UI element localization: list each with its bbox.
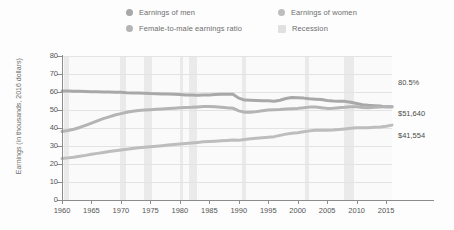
y-tick-label: 10 xyxy=(36,178,58,186)
x-tick-label: 2015 xyxy=(371,206,401,215)
y-tick-label: 70 xyxy=(36,70,58,78)
y-axis-line xyxy=(62,55,63,201)
legend-marker-circle-icon xyxy=(278,9,285,16)
x-tick-label: 1995 xyxy=(253,206,283,215)
legend-marker-circle-icon xyxy=(126,25,133,32)
x-tick-label: 2010 xyxy=(342,206,372,215)
y-tick-label: 60 xyxy=(36,88,58,96)
chart-legend: Earnings of men Earnings of women Female… xyxy=(120,6,420,40)
x-tick-label: 1990 xyxy=(224,206,254,215)
y-tick-label: 50 xyxy=(36,106,58,114)
x-tick-mark xyxy=(386,200,387,204)
plot-area xyxy=(62,56,392,200)
x-tick-mark xyxy=(209,200,210,204)
x-tick-mark xyxy=(298,200,299,204)
series-line xyxy=(62,91,392,107)
x-tick-mark xyxy=(180,200,181,204)
series-line xyxy=(62,125,392,158)
x-tick-mark xyxy=(121,200,122,204)
series-lines xyxy=(62,56,392,200)
x-tick-label: 2000 xyxy=(283,206,313,215)
x-tick-mark xyxy=(91,200,92,204)
legend-label: Earnings of men xyxy=(139,8,195,17)
x-tick-label: 1965 xyxy=(76,206,106,215)
legend-item-earnings-of-women[interactable]: Earnings of women xyxy=(278,8,357,17)
earnings-line-chart: Earnings of men Earnings of women Female… xyxy=(0,0,454,230)
end-label-women: $41,554 xyxy=(398,131,425,140)
x-tick-label: 2005 xyxy=(312,206,342,215)
y-tick-label: 80 xyxy=(36,52,58,60)
x-axis-line xyxy=(62,200,434,201)
x-tick-mark xyxy=(150,200,151,204)
x-tick-mark xyxy=(239,200,240,204)
x-tick-mark xyxy=(268,200,269,204)
x-tick-label: 1970 xyxy=(106,206,136,215)
x-tick-label: 1980 xyxy=(165,206,195,215)
end-label-men: $51,640 xyxy=(398,109,425,118)
x-tick-mark xyxy=(327,200,328,204)
x-tick-label: 1975 xyxy=(135,206,165,215)
legend-label: Female-to-male earnings ratio xyxy=(139,24,242,33)
x-tick-mark xyxy=(357,200,358,204)
y-tick-label: 30 xyxy=(36,142,58,150)
legend-label: Recession xyxy=(292,24,328,33)
y-axis-ticks: 01020304050607080 xyxy=(0,0,58,230)
x-tick-mark xyxy=(62,200,63,204)
y-tick-label: 20 xyxy=(36,160,58,168)
x-tick-label: 1960 xyxy=(47,206,77,215)
legend-item-earnings-of-men[interactable]: Earnings of men xyxy=(126,8,195,17)
legend-label: Earnings of women xyxy=(291,8,357,17)
y-tick-label: 40 xyxy=(36,124,58,132)
legend-item-female-to-male-ratio[interactable]: Female-to-male earnings ratio xyxy=(126,24,242,33)
legend-marker-square-icon xyxy=(278,25,286,33)
x-tick-label: 1985 xyxy=(194,206,224,215)
legend-marker-circle-icon xyxy=(126,9,133,16)
end-label-ratio: 80.5% xyxy=(398,78,419,87)
legend-item-recession[interactable]: Recession xyxy=(278,24,328,33)
y-tick-label: 0 xyxy=(36,196,58,204)
